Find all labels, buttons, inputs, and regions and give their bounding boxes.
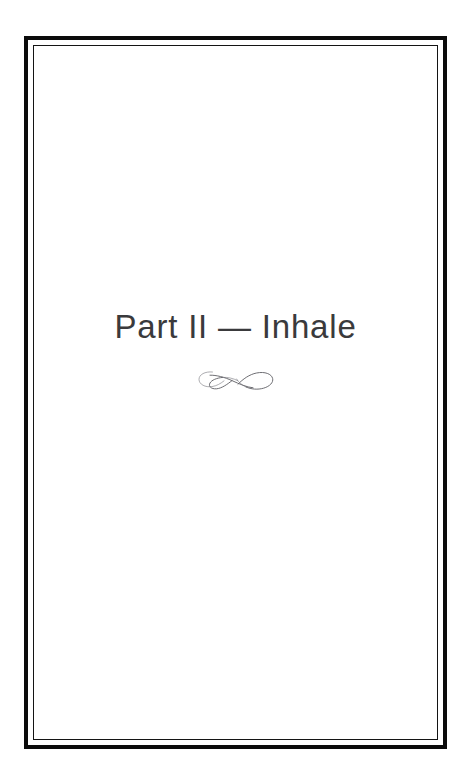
page-title: Part II — Inhale bbox=[114, 310, 356, 343]
part-title-block: Part II — Inhale bbox=[34, 46, 437, 739]
calligraphic-flourish-ornament bbox=[198, 367, 274, 397]
part-title-page: Part II — Inhale bbox=[0, 0, 469, 767]
